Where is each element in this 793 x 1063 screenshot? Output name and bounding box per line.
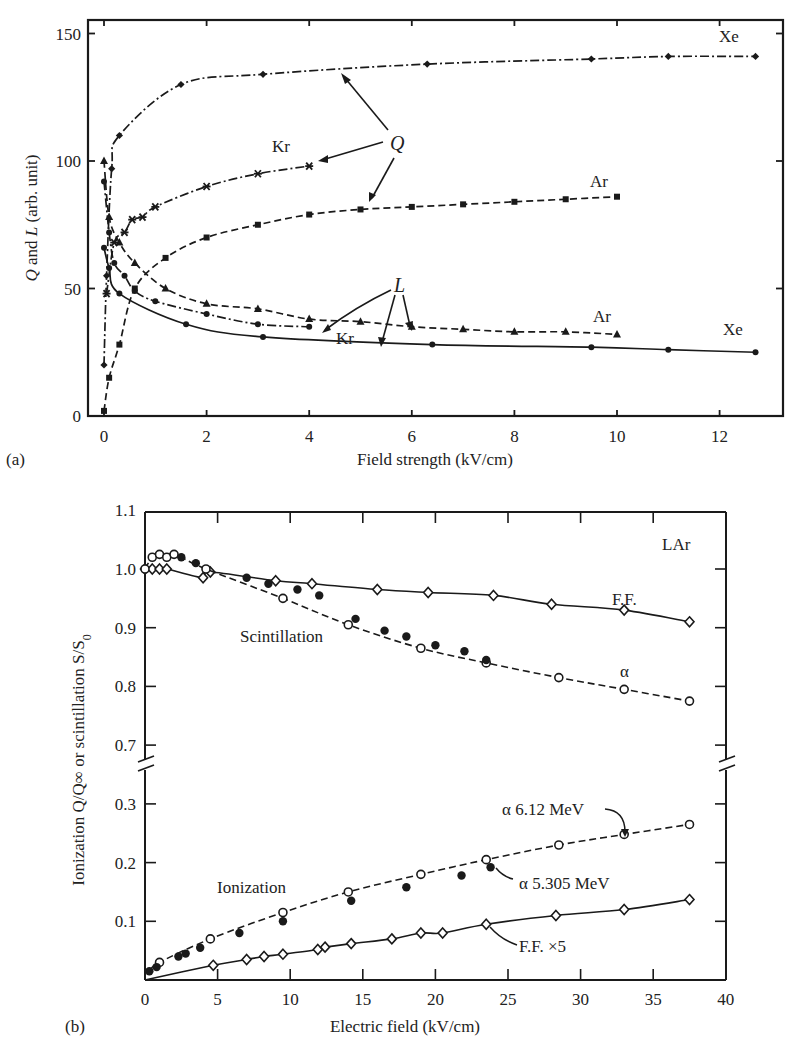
open-diamond-marker (489, 590, 498, 600)
circle-marker (753, 349, 759, 355)
x-tick-label-b: 30 (572, 990, 589, 1009)
circle-marker (132, 288, 138, 294)
series-l-xe (101, 245, 759, 356)
x-tick-label-b: 25 (500, 990, 517, 1009)
series-layer-b (141, 550, 695, 980)
triangle-marker (459, 325, 467, 333)
filled-circle-marker (347, 897, 355, 905)
chart-a: 024681012 050100150 Xe Kr Ar Q L Ar Kr X… (6, 20, 783, 469)
filled-circle-marker (196, 944, 204, 952)
x-tick-label-a: 0 (100, 427, 109, 446)
triangle-marker (105, 213, 113, 221)
label-xe-l: Xe (723, 320, 743, 339)
open-circle-marker (417, 870, 425, 878)
diamond-marker (100, 361, 107, 368)
open-diamond-marker (373, 585, 382, 595)
series--5-305-mev (145, 863, 495, 975)
diamond-marker (752, 53, 759, 60)
square-marker (358, 206, 364, 212)
open-diamond-marker (209, 960, 218, 970)
y-axis-title-b-sub: 0 (80, 634, 94, 640)
x-tick-label-b: 15 (354, 990, 371, 1009)
series-f-f-5 (145, 895, 694, 980)
diamond-marker (177, 81, 184, 88)
open-diamond-marker (387, 934, 396, 944)
open-diamond-marker (620, 905, 629, 915)
filled-circle-marker (431, 641, 439, 649)
circle-marker (106, 229, 112, 235)
y-axis-title-b-main: Ionization Q/Q∞ or scintillation S/S (69, 640, 88, 885)
x-tick-label-a: 8 (510, 427, 519, 446)
circle-marker (665, 347, 671, 353)
filled-circle-marker (279, 917, 287, 925)
open-diamond-marker (438, 928, 447, 938)
panel-label-a: (a) (6, 450, 25, 469)
y-axis-title-unit: (arb. unit) (22, 154, 41, 226)
square-marker (116, 342, 122, 348)
y-tick-label-b: 0.8 (115, 677, 136, 696)
open-circle-marker (141, 565, 149, 573)
square-marker (511, 199, 517, 205)
open-diamond-marker (347, 939, 356, 949)
label-scintillation: Scintillation (240, 627, 324, 646)
x-tick-label-a: 10 (609, 427, 626, 446)
circle-marker (116, 291, 122, 297)
open-diamond-marker (416, 928, 425, 938)
circle-marker (260, 334, 266, 340)
open-diamond-marker (685, 617, 694, 627)
square-marker (409, 204, 415, 210)
x-axis-title-a: Field strength (kV/cm) (357, 450, 513, 469)
label-ar-l: Ar (593, 307, 611, 326)
circle-marker (204, 311, 210, 317)
figure: 024681012 050100150 Xe Kr Ar Q L Ar Kr X… (0, 0, 793, 1063)
filled-circle-marker (264, 579, 272, 587)
series-l-ar (100, 157, 621, 338)
x-tick-label-b: 35 (645, 990, 662, 1009)
label-l: L (393, 274, 405, 296)
square-marker (255, 222, 261, 228)
filled-circle-marker (380, 626, 388, 634)
asterisk-marker (151, 203, 159, 210)
filled-circle-marker (242, 574, 250, 582)
label-ff: F.F. (612, 590, 637, 609)
open-circle-marker (482, 856, 490, 864)
circle-marker (183, 321, 189, 327)
square-marker (106, 375, 112, 381)
y-axis-title-l: L (22, 227, 41, 237)
series-l-kr (101, 178, 312, 329)
label-lar: LAr (662, 535, 691, 554)
x-tick-label-b: 0 (141, 990, 150, 1009)
y-axis-title-and: and (22, 236, 41, 269)
y-tick-label-a: 150 (56, 25, 82, 44)
square-marker (460, 201, 466, 207)
diamond-marker (424, 61, 431, 68)
x-axis-title-b: Electric field (kV/cm) (330, 1017, 480, 1036)
open-circle-marker (555, 674, 563, 682)
chart-b: 0510152025303540 0.10.20.30.70.80.91.01.… (65, 501, 735, 1036)
triangle-marker (613, 330, 621, 338)
y-tick-label-a: 0 (73, 407, 82, 426)
filled-circle-marker (482, 656, 490, 664)
open-diamond-marker (547, 599, 556, 609)
x-axis-ticks-b: 0510152025303540 (141, 512, 735, 1009)
filled-circle-marker (192, 559, 200, 567)
label-ff-x5: F.F. ×5 (519, 937, 566, 956)
x-axis-ticks-a: 024681012 (100, 20, 728, 446)
open-diamond-marker (278, 949, 287, 959)
y-axis-ticks-a: 050100150 (56, 25, 784, 427)
annotation-arrowheads-a (318, 73, 413, 347)
diamond-marker (588, 55, 595, 62)
asterisk-marker (128, 216, 136, 223)
open-diamond-marker (551, 910, 560, 920)
panel-label-b: (b) (65, 1017, 85, 1036)
open-circle-marker (555, 841, 563, 849)
circle-marker (306, 324, 312, 330)
series-q-ar (101, 194, 620, 414)
circle-marker (106, 265, 112, 271)
y-tick-label-a: 50 (64, 280, 81, 299)
asterisk-marker (138, 214, 146, 221)
label-kr-l: Kr (336, 329, 354, 348)
open-diamond-marker (685, 895, 694, 905)
square-marker (614, 194, 620, 200)
open-circle-marker (417, 644, 425, 652)
